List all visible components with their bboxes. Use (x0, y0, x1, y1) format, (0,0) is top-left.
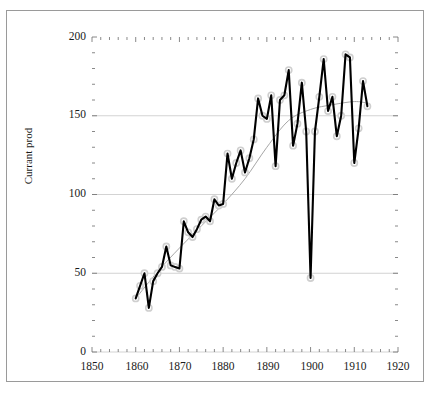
series-line-currant-prod (136, 54, 368, 308)
gridlines (92, 116, 398, 352)
chart-figure: Currant prod 200 150 100 50 0 1850 1860 … (0, 0, 436, 401)
data-point-markers (133, 51, 371, 311)
chart-canvas (0, 0, 436, 401)
